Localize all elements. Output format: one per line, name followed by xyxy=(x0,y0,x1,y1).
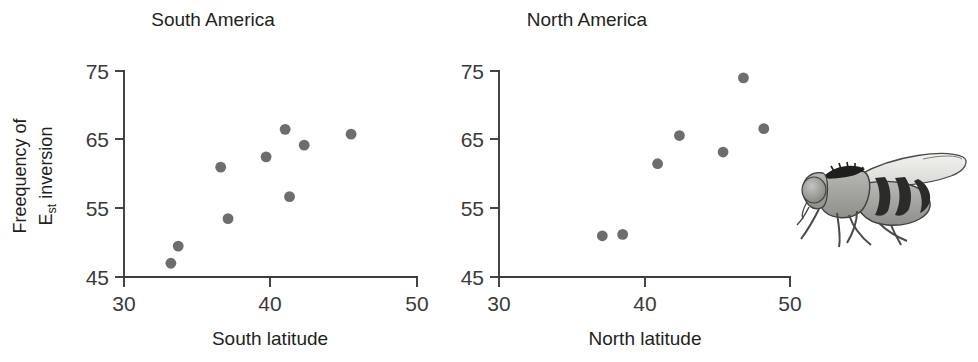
panel-title-north-america: North America xyxy=(527,9,648,30)
x-tick-label: 40 xyxy=(633,292,656,315)
x-tick-label: 50 xyxy=(405,292,428,315)
y-tick-label: 75 xyxy=(86,60,109,83)
data-point xyxy=(261,151,272,162)
data-point xyxy=(652,158,663,169)
data-point xyxy=(165,258,176,269)
y-tick-label: 45 xyxy=(461,266,484,289)
y-axis-label-base: E xyxy=(36,213,56,225)
x-tick-labels-south-america: 30 40 50 xyxy=(112,292,428,315)
data-point xyxy=(173,241,184,252)
x-ticks-north-america xyxy=(499,277,790,287)
y-tick-label: 45 xyxy=(86,266,109,289)
fly-leg xyxy=(891,225,901,245)
data-point xyxy=(346,129,357,140)
datapoints-south-america xyxy=(165,124,356,269)
data-point xyxy=(280,124,291,135)
data-point xyxy=(215,162,226,173)
fly-leg xyxy=(801,209,819,239)
axis-lines-north-america xyxy=(499,71,790,277)
x-tick-label: 40 xyxy=(258,292,281,315)
y-tick-labels-south-america: 75 65 55 45 xyxy=(86,60,109,289)
data-point xyxy=(617,229,628,240)
y-tick-label: 65 xyxy=(86,128,109,151)
data-point xyxy=(223,213,234,224)
data-point xyxy=(718,147,729,158)
data-point xyxy=(299,140,310,151)
y-ticks-south-america xyxy=(115,71,124,277)
panel-north-america: North America 75 65 55 45 30 40 50 North… xyxy=(461,9,802,349)
y-ticks-north-america xyxy=(490,71,499,277)
x-tick-label: 30 xyxy=(487,292,510,315)
y-axis-label-line2: Est inversion xyxy=(36,127,59,226)
data-point xyxy=(674,130,685,141)
x-axis-title-north-america: North latitude xyxy=(588,328,701,349)
data-point xyxy=(284,191,295,202)
x-tick-label: 30 xyxy=(112,292,135,315)
y-tick-labels-north-america: 75 65 55 45 xyxy=(461,60,484,289)
y-tick-label: 55 xyxy=(86,197,109,220)
y-axis-label-line1: Freequency of xyxy=(10,117,30,233)
datapoints-north-america xyxy=(597,72,769,241)
fly-eye xyxy=(802,177,826,203)
data-point xyxy=(758,123,769,134)
data-point xyxy=(597,230,608,241)
x-tick-label: 50 xyxy=(778,292,801,315)
x-ticks-south-america xyxy=(124,277,417,287)
x-tick-labels-north-america: 30 40 50 xyxy=(487,292,801,315)
panel-south-america: South America 75 65 55 45 30 40 50 South xyxy=(86,9,429,349)
y-tick-label: 75 xyxy=(461,60,484,83)
drosophila-fly-icon xyxy=(797,154,966,247)
figure-root: Freequency of Est inversion South Americ… xyxy=(0,0,978,362)
x-axis-title-south-america: South latitude xyxy=(212,328,328,349)
y-tick-label: 55 xyxy=(461,197,484,220)
data-point xyxy=(738,72,749,83)
axis-lines-south-america xyxy=(124,71,417,277)
y-axis-label-rest: inversion xyxy=(36,127,56,204)
y-axis-label-subscript: st xyxy=(45,203,59,213)
y-tick-label: 65 xyxy=(461,128,484,151)
y-axis-label: Freequency of Est inversion xyxy=(10,117,59,233)
panel-title-south-america: South America xyxy=(151,9,275,30)
